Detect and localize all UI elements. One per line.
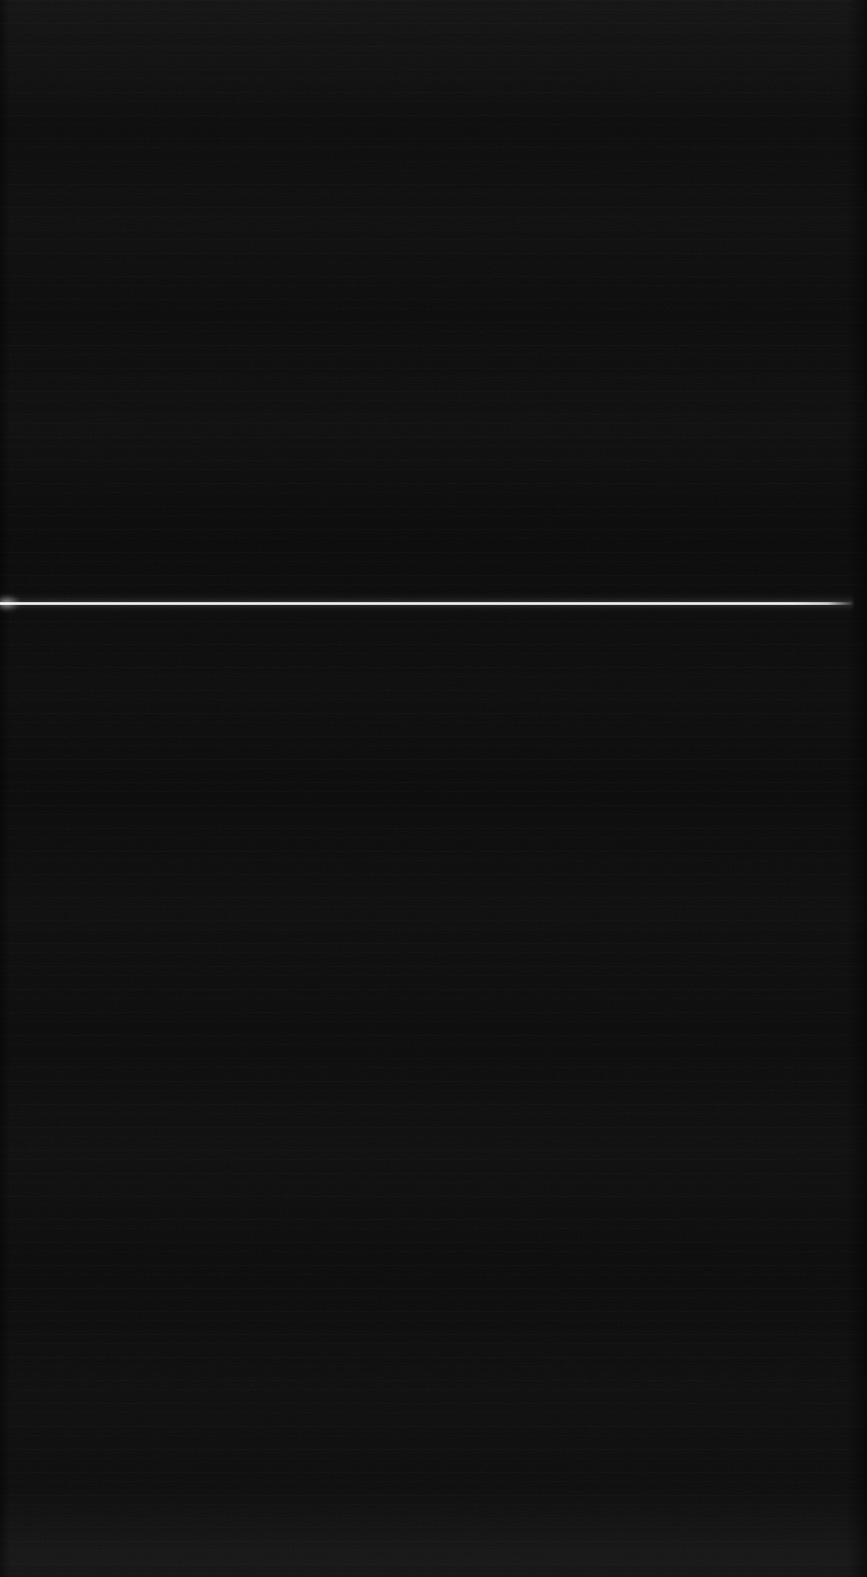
divider-core-stroke [0,602,853,605]
horizontal-divider-line [0,593,853,613]
screen-root: Blank dark screen with a single bright h… [0,0,867,1577]
background-field [0,0,867,1577]
